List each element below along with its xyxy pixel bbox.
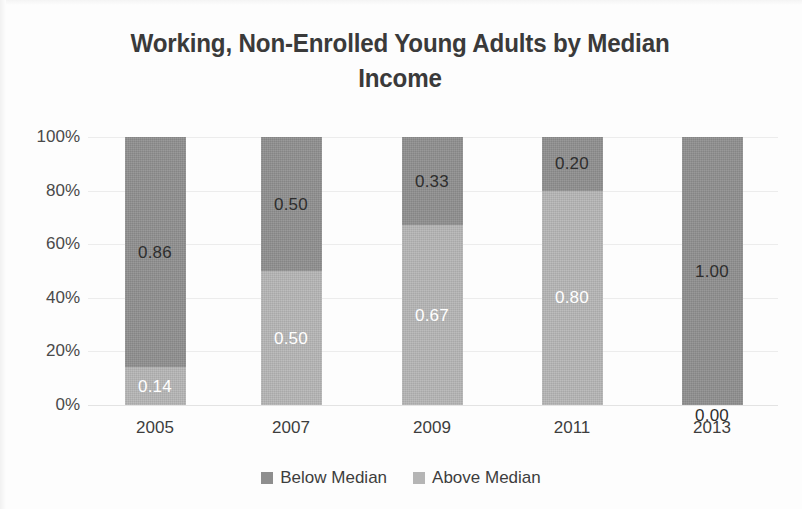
bar-segment-below-median[interactable]: 1.00 [682, 137, 743, 405]
bar-value-label: 0.67 [415, 307, 449, 324]
legend-swatch-icon [413, 472, 425, 484]
legend-label: Above Median [432, 468, 541, 488]
bar-value-label: 0.86 [138, 244, 172, 261]
x-axis-line [88, 405, 778, 406]
bar-segment-below-median[interactable]: 0.50 [261, 137, 322, 271]
x-axis-tick-label: 2009 [372, 418, 492, 438]
bar-value-label: 0.33 [415, 173, 449, 190]
y-axis-tick-label: 80% [10, 181, 80, 201]
y-axis-tick-label: 20% [10, 341, 80, 361]
y-axis-tick-label: 100% [10, 127, 80, 147]
y-axis-tick-label: 0% [10, 395, 80, 415]
bar-value-label: 0.50 [274, 330, 308, 347]
bar-segment-below-median[interactable]: 0.33 [402, 137, 463, 225]
legend-item-below-median[interactable]: Below Median [261, 468, 387, 488]
y-axis-tick-label: 60% [10, 234, 80, 254]
bar-2005[interactable]: 0.860.14 [125, 137, 186, 405]
bar-value-label: 0.20 [555, 155, 589, 172]
bar-segment-below-median[interactable]: 0.86 [125, 137, 186, 367]
plot-area: 0.860.140.500.500.330.670.200.801.000.00 [88, 137, 778, 405]
bar-value-label: 0.00 [695, 407, 729, 424]
bar-2011[interactable]: 0.200.80 [542, 137, 603, 405]
legend-item-above-median[interactable]: Above Median [413, 468, 541, 488]
bar-value-label: 0.50 [274, 196, 308, 213]
legend-label: Below Median [280, 468, 387, 488]
y-axis: 0%20%40%60%80%100% [8, 137, 80, 405]
bar-value-label: 1.00 [695, 263, 729, 280]
y-axis-tick-label: 40% [10, 288, 80, 308]
bar-2007[interactable]: 0.500.50 [261, 137, 322, 405]
bar-2009[interactable]: 0.330.67 [402, 137, 463, 405]
chart-title: Working, Non-Enrolled Young Adults by Me… [112, 26, 689, 95]
chart-legend: Below MedianAbove Median [0, 468, 802, 488]
bar-2013[interactable]: 1.000.00 [682, 137, 743, 405]
legend-swatch-icon [261, 472, 273, 484]
bar-segment-above-median[interactable]: 0.80 [542, 191, 603, 405]
bar-segment-above-median[interactable]: 0.67 [402, 225, 463, 405]
x-axis-tick-label: 2007 [231, 418, 351, 438]
bar-segment-below-median[interactable]: 0.20 [542, 137, 603, 191]
bar-value-label: 0.80 [555, 289, 589, 306]
x-axis-tick-label: 2011 [512, 418, 632, 438]
stacked-bar-chart: Working, Non-Enrolled Young Adults by Me… [0, 0, 802, 509]
bar-value-label: 0.14 [138, 378, 172, 395]
bar-segment-above-median[interactable]: 0.14 [125, 367, 186, 405]
bar-segment-above-median[interactable]: 0.50 [261, 271, 322, 405]
x-axis-tick-label: 2005 [95, 418, 215, 438]
